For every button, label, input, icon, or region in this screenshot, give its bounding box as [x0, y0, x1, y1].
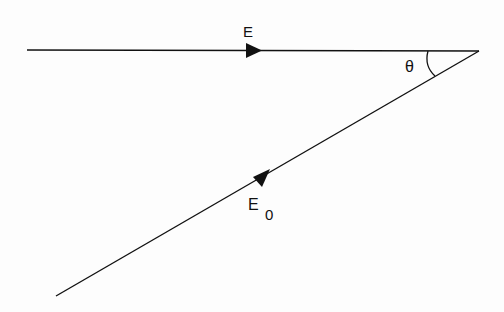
vector-e0-label: E [248, 196, 259, 213]
vector-e-label: E [243, 23, 253, 40]
angle-arc [427, 51, 435, 76]
diagram-svg: E E 0 θ [0, 0, 504, 312]
vector-e0-arrowhead-icon [253, 169, 270, 187]
vector-e-arrowhead-icon [246, 43, 262, 58]
angle-theta-label: θ [405, 58, 414, 75]
vector-diagram: E E 0 θ [0, 0, 504, 312]
vector-e0-subscript: 0 [265, 206, 273, 223]
